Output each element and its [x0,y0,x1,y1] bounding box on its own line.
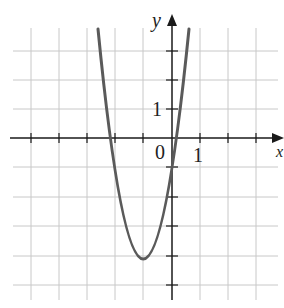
y-axis-arrow-icon [167,14,177,26]
x-axis-label: x [276,144,283,160]
plot-canvas [0,0,284,308]
x-tick-one-label: 1 [193,145,203,165]
y-axis-label: y [152,10,161,30]
y-tick-one-label: 1 [152,99,162,119]
origin-label: 0 [155,142,165,162]
x-axis-arrow-icon [272,133,284,143]
